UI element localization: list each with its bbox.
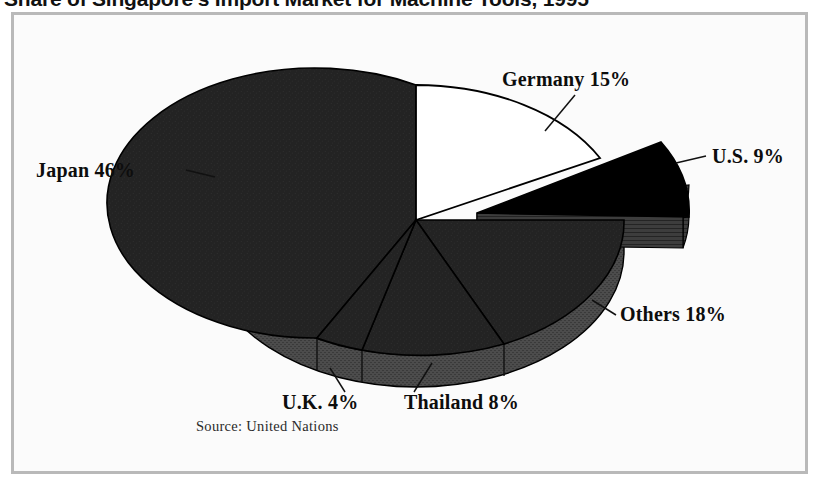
pie-label-others: Others 18% xyxy=(620,303,726,326)
page-title: Share of Singapore's Import Market for M… xyxy=(4,0,589,11)
pie-label-japan: Japan 46% xyxy=(36,159,135,182)
pie-label-thailand: Thailand 8% xyxy=(404,391,519,414)
pie-label-uk: U.K. 4% xyxy=(282,391,358,414)
chart-figure: Share of Singapore's Import Market for M… xyxy=(0,0,820,477)
pie-label-us: U.S. 9% xyxy=(712,145,784,168)
pie-label-germany: Germany 15% xyxy=(502,68,630,91)
source-note: Source: United Nations xyxy=(196,418,339,435)
